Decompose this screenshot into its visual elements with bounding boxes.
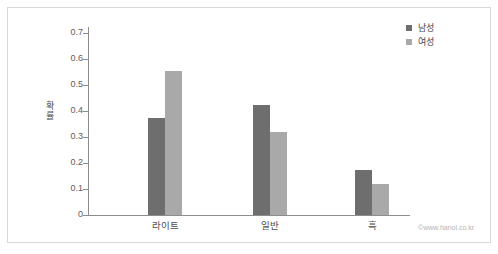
y-axis-tick-label-text: 0.4: [57, 106, 83, 115]
legend-item-여성: 여성: [406, 36, 434, 48]
x-axis-category-label: 라이트: [135, 220, 195, 231]
bar-일반-여성: [270, 132, 287, 215]
bar-흑-남성: [355, 170, 372, 216]
y-axis-tick-label-text: 0.6: [57, 54, 83, 63]
y-axis-tick-label-text: 0.3: [57, 132, 83, 141]
y-axis-title-char-1: 확: [44, 101, 56, 111]
y-axis-tick: [83, 137, 89, 138]
y-axis-tick-label: 0: [52, 210, 83, 219]
y-axis-tick: [83, 33, 89, 34]
x-axis-category-label: 흑: [342, 220, 402, 231]
bar-라이트-여성: [165, 71, 182, 215]
legend-item-label: 여성: [418, 37, 434, 47]
y-axis-tick-label-text: 0.5: [57, 80, 83, 89]
y-axis-tick: [83, 111, 89, 112]
y-axis-tick-label: 0.2: [52, 158, 83, 167]
bar-라이트-남성: [148, 118, 165, 216]
y-axis-tick-label-text: 0.2: [57, 158, 83, 167]
legend-item-label: 남성: [418, 23, 434, 33]
watermark-text: ©www.hanol.co.kr: [418, 224, 474, 231]
y-axis-tick-label: 0.4: [52, 106, 83, 115]
y-axis-title-char-2: 률: [44, 111, 56, 121]
y-axis-tick: [83, 85, 89, 86]
y-axis-tick-label: 0.6: [52, 54, 83, 63]
y-axis-tick-label-text: 0.1: [57, 184, 83, 193]
y-axis-tick-label-text: 0.7: [57, 28, 83, 37]
y-axis-tick-label: 0.3: [52, 132, 83, 141]
chart-legend: 남성여성: [406, 22, 434, 50]
chart-figure: 00.10.20.30.40.50.60.7 확 률 라이트일반흑 남성여성 ©…: [0, 0, 498, 254]
y-axis-tick-label: 0.1: [52, 184, 83, 193]
legend-swatch-icon: [406, 25, 412, 31]
y-axis-tick-label: 0.7: [52, 28, 83, 37]
y-axis-tick-label: 0.5: [52, 80, 83, 89]
y-axis-tick-label-text: 0: [57, 210, 83, 219]
legend-item-남성: 남성: [406, 22, 434, 34]
y-axis-tick: [83, 215, 89, 216]
y-axis-title: 확 률: [44, 101, 56, 121]
x-axis-line: [88, 215, 410, 216]
legend-swatch-icon: [406, 39, 412, 45]
x-axis-category-label: 일반: [240, 220, 300, 231]
bar-흑-여성: [372, 184, 389, 215]
y-axis-tick: [83, 59, 89, 60]
y-axis-line: [88, 27, 89, 216]
y-axis-tick: [83, 189, 89, 190]
bar-일반-남성: [253, 105, 270, 216]
plot-area: 00.10.20.30.40.50.60.7 확 률 라이트일반흑 남성여성 ©…: [0, 0, 498, 254]
y-axis-tick: [83, 163, 89, 164]
